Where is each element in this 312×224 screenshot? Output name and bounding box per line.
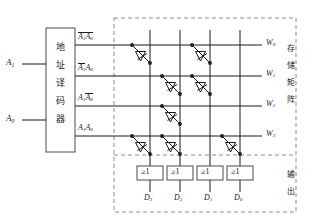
output-char-1: 输 <box>287 168 295 179</box>
minterm-0-a0: A0 <box>85 33 92 42</box>
address-input-a1-sub: 1 <box>12 62 15 68</box>
input-wires <box>22 64 46 120</box>
data-output-d2: D2 <box>174 194 182 203</box>
word-line-w3: W3 <box>266 130 275 139</box>
word-line-w1: W1 <box>266 70 275 79</box>
storage-matrix-char-1: 存 <box>287 42 295 53</box>
or-gate-d3[interactable]: ≥1 <box>141 168 149 176</box>
storage-matrix-label: 存 储 矩 阵 <box>284 42 298 104</box>
data-output-d3-sub: 3 <box>150 197 152 202</box>
or-gate-d2[interactable]: ≥1 <box>171 168 179 176</box>
decoder-char-1: 地 <box>56 40 65 53</box>
address-input-a1: A1 <box>6 58 14 68</box>
word-line-w2: W2 <box>266 100 275 109</box>
decoder-char-5: 器 <box>56 112 65 125</box>
minterm-2-a0: A0 <box>85 94 92 103</box>
data-output-d1: D1 <box>204 194 212 203</box>
word-line-w0: W0 <box>266 39 275 48</box>
diode-w0-d3 <box>130 43 152 65</box>
data-output-d1-sub: 1 <box>210 197 212 202</box>
diode-w1-d2 <box>160 74 182 96</box>
data-output-d0: D0 <box>234 194 242 203</box>
data-output-d3: D3 <box>144 194 152 203</box>
address-decoder-label: 地 址 译 码 器 <box>46 40 75 125</box>
minterm-row-3: A1A0 <box>78 124 93 133</box>
minterm-row-2: A1A0 <box>78 94 93 103</box>
diode-w3-d2 <box>160 134 182 156</box>
decoder-char-3: 译 <box>56 76 65 89</box>
diode-w2-d2 <box>160 104 182 126</box>
minterm-row-0: A1A0 <box>78 33 93 42</box>
data-output-d0-sub: 0 <box>240 197 242 202</box>
data-output-d2-sub: 2 <box>180 197 182 202</box>
word-line-w3-sub: 3 <box>273 133 275 138</box>
storage-matrix-char-4: 阵 <box>287 93 295 104</box>
or-gate-d1[interactable]: ≥1 <box>201 168 209 176</box>
minterm-1-a0: A0 <box>85 63 92 72</box>
rom-diagram: .wire{stroke:#1a1a1a;stroke-width:1;fill… <box>0 0 312 224</box>
diode-w1-d1 <box>190 74 212 96</box>
minterm-3-a0: A0 <box>85 123 92 132</box>
or-gate-d0[interactable]: ≥1 <box>231 168 239 176</box>
diode-w3-d0 <box>220 134 242 156</box>
decoder-char-2: 址 <box>56 58 65 71</box>
output-char-2: 出 <box>287 185 295 196</box>
address-input-a0-sub: 0 <box>12 118 15 124</box>
diode-w3-d3 <box>130 134 152 156</box>
address-input-a0: A0 <box>6 114 14 124</box>
word-lines <box>75 45 262 136</box>
minterm-1-a1: A1 <box>78 64 85 73</box>
minterm-row-1: A1A0 <box>78 64 93 73</box>
decoder-char-4: 码 <box>56 94 65 107</box>
word-line-w1-sub: 1 <box>273 73 275 78</box>
output-wires <box>150 180 240 192</box>
word-line-w2-sub: 2 <box>273 103 275 108</box>
diode-w0-d1 <box>190 43 212 65</box>
output-section-label: 输 出 <box>284 168 298 196</box>
storage-matrix-char-3: 矩 <box>287 76 295 87</box>
bit-lines <box>150 30 240 166</box>
word-line-w0-sub: 0 <box>273 42 275 47</box>
storage-matrix-char-2: 储 <box>287 59 295 70</box>
